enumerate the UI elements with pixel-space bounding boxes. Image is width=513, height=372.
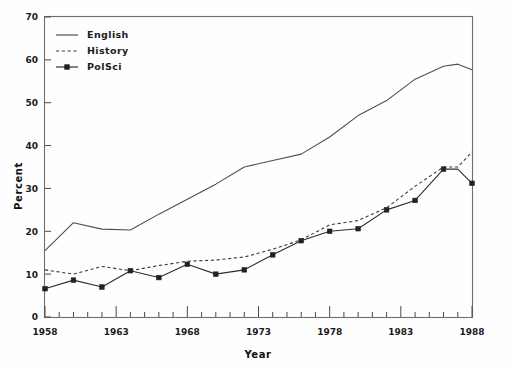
- y-tick-label: 40: [25, 141, 38, 151]
- x-axis-major-ticks: [45, 306, 472, 317]
- data-point-marker: [100, 285, 105, 290]
- data-series-layer: [43, 64, 475, 291]
- legend-label: History: [87, 45, 129, 56]
- line-chart-figure: 010203040506070 195819631968197319781983…: [0, 0, 513, 372]
- data-point-marker: [270, 253, 275, 258]
- series-english: [45, 64, 472, 250]
- x-tick-label: 1988: [459, 327, 484, 337]
- chart-container: 010203040506070 195819631968197319781983…: [0, 0, 513, 372]
- legend-label: English: [87, 29, 129, 40]
- data-point-marker: [128, 268, 133, 273]
- y-tick-label: 0: [32, 312, 38, 322]
- data-point-marker: [299, 238, 304, 243]
- legend-label: PolSci: [87, 61, 122, 72]
- data-point-marker: [214, 272, 219, 277]
- data-point-marker: [43, 286, 48, 291]
- y-axis-ticks: [45, 17, 51, 317]
- x-tick-label: 1983: [388, 327, 413, 337]
- y-tick-label: 50: [25, 98, 38, 108]
- series-history: [45, 152, 472, 274]
- x-tick-label: 1958: [32, 327, 57, 337]
- x-tick-label: 1978: [317, 327, 342, 337]
- x-axis-title: Year: [243, 349, 271, 360]
- x-tick-label: 1963: [104, 327, 129, 337]
- data-point-marker: [413, 198, 418, 203]
- series-line-english: [45, 64, 472, 250]
- y-tick-label: 10: [25, 270, 38, 280]
- legend-item-english: English: [56, 29, 129, 40]
- y-tick-label: 20: [25, 227, 38, 237]
- data-point-marker: [185, 262, 190, 267]
- x-tick-label: 1973: [246, 327, 271, 337]
- series-line-history: [45, 152, 472, 274]
- y-tick-label: 30: [25, 184, 38, 194]
- legend-item-history: History: [56, 45, 129, 56]
- data-point-marker: [327, 229, 332, 234]
- data-point-marker: [157, 275, 162, 280]
- chart-legend: EnglishHistoryPolSci: [56, 29, 129, 72]
- data-point-marker: [356, 226, 361, 231]
- data-point-marker: [384, 208, 389, 213]
- legend-item-polsci: PolSci: [56, 61, 122, 72]
- data-point-marker: [441, 167, 446, 172]
- x-tick-label: 1968: [175, 327, 200, 337]
- y-axis-title: Percent: [13, 162, 24, 210]
- data-point-marker: [71, 278, 76, 283]
- x-axis-tick-labels: 1958196319681973197819831988: [32, 327, 484, 337]
- data-point-marker: [470, 181, 475, 186]
- legend-marker-icon: [65, 65, 70, 70]
- data-point-marker: [242, 268, 247, 273]
- y-tick-label: 70: [25, 12, 38, 22]
- y-tick-label: 60: [25, 55, 38, 65]
- y-axis-tick-labels: 010203040506070: [25, 12, 38, 322]
